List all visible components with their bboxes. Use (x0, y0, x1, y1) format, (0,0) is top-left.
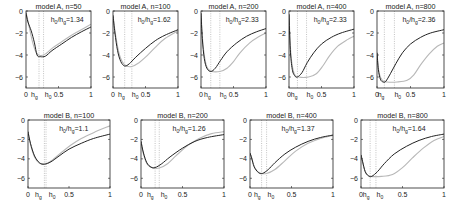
y-tick-label: −6 (17, 175, 25, 182)
x-tick-label: 1 (108, 191, 112, 198)
x-tick-label-h0: h0 (307, 91, 314, 100)
x-tick-label: 0 (111, 91, 115, 98)
y-tick-label: 0 (106, 8, 110, 15)
y-tick-label: −2 (190, 30, 198, 37)
ratio-annotation: h0/hg=1.64 (393, 125, 426, 134)
y-tick-label: 0 (282, 8, 286, 15)
x-tick-label-h0: h0 (161, 191, 168, 200)
chart-title: model A, n=800 (385, 2, 435, 11)
x-tick-label: 0 (139, 191, 143, 198)
series-dark-line (141, 135, 224, 168)
x-tick-label: 0 (24, 91, 28, 98)
x-tick-label-h0: h0 (45, 91, 52, 100)
x-tick-label-hg: hg (118, 91, 125, 100)
x-tick-label: 0 (248, 191, 252, 198)
x-tick-label-hg: hg (31, 91, 38, 100)
series-light-line (377, 43, 444, 82)
y-tick-label: −4 (366, 52, 374, 59)
y-tick-label: −6 (239, 175, 247, 182)
y-tick-label: −6 (102, 74, 110, 81)
ratio-annotation: h0/hg=1.1 (59, 125, 88, 134)
y-tick-label: −6 (350, 175, 358, 182)
series-dark-line (28, 132, 110, 165)
x-tick-label-hg: hg (378, 91, 385, 100)
y-tick-label: −6 (15, 74, 23, 81)
chart-panel: model B, n=2000−2−4−600.51hgh0h0/hg=1.26 (130, 111, 226, 200)
x-tick-label-h0: h0 (220, 91, 227, 100)
x-tick-label: 0.5 (406, 91, 416, 98)
chart-title: model A, n=50 (35, 2, 81, 11)
ratio-annotation: h0/hg=1.62 (138, 16, 171, 25)
x-tick-label: 1 (331, 191, 335, 198)
y-tick-label: 0 (19, 8, 23, 15)
x-tick-label: 0.5 (64, 191, 74, 198)
chart-panel: model B, n=1000−2−4−600.51hgh0h0/hg=1.1 (17, 111, 112, 200)
y-tick-label: −2 (102, 30, 110, 37)
y-tick-label: −2 (350, 136, 358, 143)
x-tick-label: 0.5 (141, 91, 151, 98)
series-dark-line (377, 30, 444, 83)
x-tick-label: 0 (26, 191, 30, 198)
x-tick-label: 1 (442, 91, 446, 98)
y-tick-label: 0 (243, 117, 247, 124)
x-tick-label: 0.5 (178, 191, 188, 198)
x-tick-label: 0.5 (317, 91, 327, 98)
y-tick-label: −2 (278, 30, 286, 37)
ratio-annotation: h0/hg=1.26 (173, 125, 206, 134)
series-light-line (141, 132, 224, 169)
y-tick-label: −4 (15, 52, 23, 59)
x-tick-label: 0.5 (229, 91, 239, 98)
y-tick-label: −6 (366, 74, 374, 81)
y-tick-label: 0 (354, 117, 358, 124)
y-tick-label: −4 (350, 155, 358, 162)
x-tick-label-h0: h0 (268, 191, 275, 200)
chart-panel: model B, n=8000−2−4−600.51hgh0h0/hg=1.64 (350, 111, 446, 200)
y-tick-label: −6 (190, 74, 198, 81)
x-tick-label-hg: hg (35, 191, 42, 200)
chart-title: model B, n=800 (377, 111, 428, 120)
ratio-annotation: h0/hg=2.33 (226, 16, 259, 25)
y-tick-label: −6 (130, 175, 138, 182)
y-tick-label: 0 (134, 117, 138, 124)
series-light-line (250, 136, 333, 174)
x-tick-label: 0.5 (54, 91, 64, 98)
chart-title: model A, n=100 (120, 2, 170, 11)
x-tick-label-h0: h0 (132, 91, 139, 100)
y-tick-label: −4 (190, 52, 198, 59)
y-tick-label: −2 (17, 136, 25, 143)
chart-title: model B, n=400 (266, 111, 317, 120)
chart-title: model A, n=200 (208, 2, 258, 11)
y-tick-label: −2 (366, 30, 374, 37)
ratio-annotation: h0/hg=2.33 (314, 16, 347, 25)
series-light-line (361, 137, 444, 177)
y-tick-label: −4 (130, 155, 138, 162)
x-tick-label: 1 (352, 91, 356, 98)
x-tick-label: 1 (264, 91, 268, 98)
chart-panel: model B, n=4000−2−4−600.51hgh0h0/hg=1.37 (239, 111, 335, 200)
y-tick-label: 0 (21, 117, 25, 124)
x-tick-label-h0: h0 (394, 91, 401, 100)
x-tick-label: 1 (176, 91, 180, 98)
chart-title: model A, n=400 (296, 2, 346, 11)
chart-panel: model A, n=2000−2−4−600.51hgh0h0/hg=2.33 (190, 2, 268, 100)
ratio-annotation: h0/hg=1.34 (51, 16, 84, 25)
x-tick-label: 1 (89, 91, 93, 98)
y-tick-label: −4 (102, 52, 110, 59)
series-dark-line (113, 15, 178, 66)
y-tick-label: −2 (15, 30, 23, 37)
series-light-line (113, 15, 178, 66)
x-tick-label-hg: hg (363, 191, 370, 200)
x-tick-label: 0.5 (287, 191, 297, 198)
y-tick-label: −4 (17, 155, 25, 162)
x-tick-label-h0: h0 (377, 191, 384, 200)
chart-title: model B, n=200 (157, 111, 208, 120)
chart-panel: model A, n=8000−2−4−600.51hgh0h0/hg=2.36 (366, 2, 446, 100)
y-tick-label: −4 (278, 52, 286, 59)
x-tick-label: 0 (199, 91, 203, 98)
y-tick-label: −2 (239, 136, 247, 143)
ratio-annotation: h0/hg=1.37 (282, 125, 315, 134)
figure: model A, n=500−2−4−600.51hgh0h0/hg=1.34m… (0, 0, 459, 211)
x-tick-label: 0.5 (398, 191, 408, 198)
series-light-line (289, 14, 354, 77)
chart-panel: model A, n=1000−2−4−600.51hgh0h0/hg=1.62 (102, 2, 180, 100)
